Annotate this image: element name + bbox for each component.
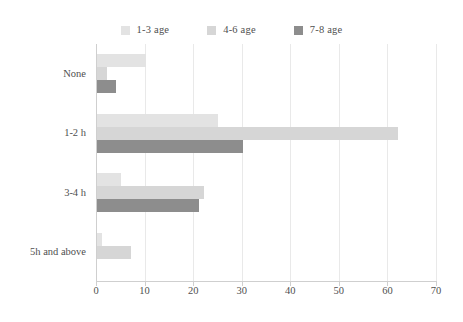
legend-label-1-3-age: 1-3 age — [137, 25, 170, 36]
bar-row — [97, 80, 437, 93]
bar-1-3-age-none[interactable] — [97, 54, 146, 67]
legend-item-7-8-age[interactable]: 7-8 age — [294, 25, 343, 36]
y-axis-label-5h-and-above: 5h and above — [30, 247, 86, 258]
bar-group-3-4-h — [97, 173, 437, 212]
legend-swatch-1-3-age-icon — [121, 26, 130, 35]
chart-legend: 1-3 age 4-6 age 7-8 age — [0, 21, 463, 39]
bar-4-6-age-3-4-h[interactable] — [97, 186, 204, 199]
legend-label-4-6-age: 4-6 age — [223, 25, 256, 36]
bar-7-8-age-none[interactable] — [97, 80, 116, 93]
bar-group-5h-and-above — [97, 233, 437, 272]
legend-label-7-8-age: 7-8 age — [310, 25, 343, 36]
y-axis-label-1-2-h: 1-2 h — [64, 128, 86, 139]
x-axis-tick-mark — [242, 282, 243, 286]
bar-7-8-age-1-2-h[interactable] — [97, 140, 243, 153]
bar-row — [97, 173, 437, 186]
bar-group-none — [97, 54, 437, 93]
bar-4-6-age-1-2-h[interactable] — [97, 127, 398, 140]
x-axis-tick-20: 20 — [188, 286, 199, 297]
bar-4-6-age-5h-and-above[interactable] — [97, 246, 131, 259]
bar-row — [97, 246, 437, 259]
bar-group-1-2-h — [97, 114, 437, 153]
legend-swatch-7-8-age-icon — [294, 26, 303, 35]
bar-row — [97, 199, 437, 212]
bar-1-3-age-3-4-h[interactable] — [97, 173, 121, 186]
x-axis-tick-mark — [290, 282, 291, 286]
bar-7-8-age-3-4-h[interactable] — [97, 199, 199, 212]
x-axis-labels: 010203040506070 — [96, 286, 437, 302]
bar-4-6-age-none[interactable] — [97, 67, 107, 80]
bar-row — [97, 140, 437, 153]
legend-item-4-6-age[interactable]: 4-6 age — [207, 25, 256, 36]
x-axis-tick-mark — [145, 282, 146, 286]
bar-row — [97, 186, 437, 199]
y-axis-line — [96, 44, 97, 282]
bar-row — [97, 54, 437, 67]
bar-row — [97, 127, 437, 140]
x-axis-tick-mark — [436, 282, 437, 286]
bar-1-3-age-5h-and-above[interactable] — [97, 233, 102, 246]
bar-row — [97, 114, 437, 127]
plot-area — [96, 44, 437, 282]
x-axis-tick-0: 0 — [93, 286, 98, 297]
legend-item-1-3-age[interactable]: 1-3 age — [121, 25, 170, 36]
bar-row — [97, 67, 437, 80]
y-axis-labels: None1-2 h3-4 h5h and above — [0, 44, 96, 282]
x-axis-tick-50: 50 — [334, 286, 345, 297]
x-axis-tick-30: 30 — [236, 286, 247, 297]
x-axis-tick-10: 10 — [139, 286, 150, 297]
bar-row — [97, 259, 437, 272]
x-axis-tick-mark — [96, 282, 97, 286]
x-axis-tick-mark — [193, 282, 194, 286]
y-axis-label-none: None — [63, 69, 86, 80]
y-axis-label-3-4-h: 3-4 h — [64, 188, 86, 199]
x-axis-line — [96, 281, 437, 282]
legend-swatch-4-6-age-icon — [207, 26, 216, 35]
x-axis-tick-40: 40 — [285, 286, 296, 297]
x-axis-tick-mark — [387, 282, 388, 286]
bar-1-3-age-1-2-h[interactable] — [97, 114, 218, 127]
x-axis-tick-70: 70 — [431, 286, 442, 297]
bar-chart: 1-3 age 4-6 age 7-8 age None1-2 h3-4 h5h… — [0, 0, 463, 322]
bar-row — [97, 233, 437, 246]
x-axis-tick-mark — [339, 282, 340, 286]
x-axis-tick-60: 60 — [382, 286, 393, 297]
